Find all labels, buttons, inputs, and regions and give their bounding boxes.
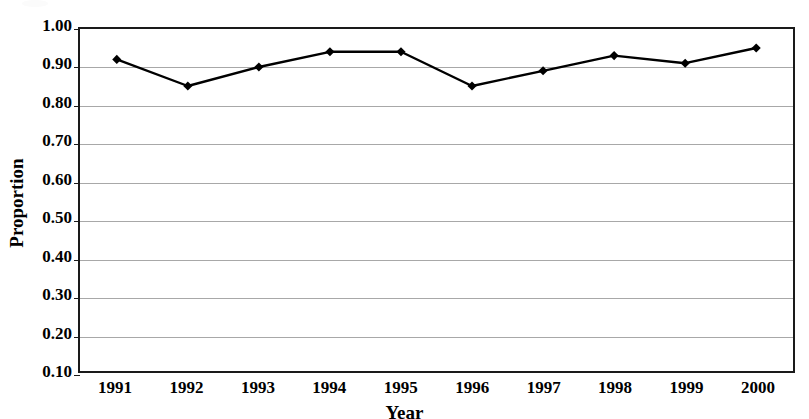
y-axis-tick-label: 0.40 <box>6 247 72 267</box>
data-point-marker <box>610 51 619 60</box>
y-axis-tick-label: 0.90 <box>6 54 72 74</box>
x-axis-title: Year <box>0 402 809 419</box>
y-axis-tick-labels: 1.000.900.800.700.600.500.400.300.200.10 <box>0 0 72 419</box>
data-point-marker <box>396 47 405 56</box>
x-axis-tick-label: 1994 <box>289 378 369 398</box>
y-axis-tick-label: 1.00 <box>6 16 72 36</box>
data-point-marker <box>681 59 690 68</box>
plot-area <box>78 27 795 373</box>
y-axis-tick-label: 0.10 <box>6 362 72 382</box>
data-point-marker <box>538 66 547 75</box>
y-axis-tick-label: 0.80 <box>6 93 72 113</box>
y-axis-tickmark <box>74 375 80 376</box>
series-polyline <box>117 48 756 86</box>
series-line-proportion <box>80 29 793 371</box>
y-axis-tick-label: 0.70 <box>6 131 72 151</box>
x-axis-tick-label: 1992 <box>146 378 226 398</box>
x-axis-tick-label: 1996 <box>432 378 512 398</box>
data-point-marker <box>752 43 761 52</box>
x-axis-tick-label: 1998 <box>575 378 655 398</box>
data-point-marker <box>325 47 334 56</box>
x-axis-tick-label: 1997 <box>504 378 584 398</box>
x-axis-tick-label: 1993 <box>218 378 298 398</box>
x-axis-tick-label: 1995 <box>361 378 441 398</box>
y-axis-tick-label: 0.30 <box>6 285 72 305</box>
data-point-marker <box>112 55 121 64</box>
y-axis-tick-label: 0.60 <box>6 170 72 190</box>
data-point-marker <box>183 81 192 90</box>
y-axis-tick-label: 0.50 <box>6 208 72 228</box>
x-axis-tick-labels: 1991199219931994199519961997199819992000 <box>78 378 795 404</box>
data-point-marker <box>254 62 263 71</box>
y-axis-tick-label: 0.20 <box>6 324 72 344</box>
x-axis-tick-label: 2000 <box>718 378 798 398</box>
x-axis-tick-label: 1991 <box>75 378 155 398</box>
data-point-marker <box>467 81 476 90</box>
x-axis-tick-label: 1999 <box>647 378 727 398</box>
chart-screenshot: Proportion 1.000.900.800.700.600.500.400… <box>0 0 809 419</box>
